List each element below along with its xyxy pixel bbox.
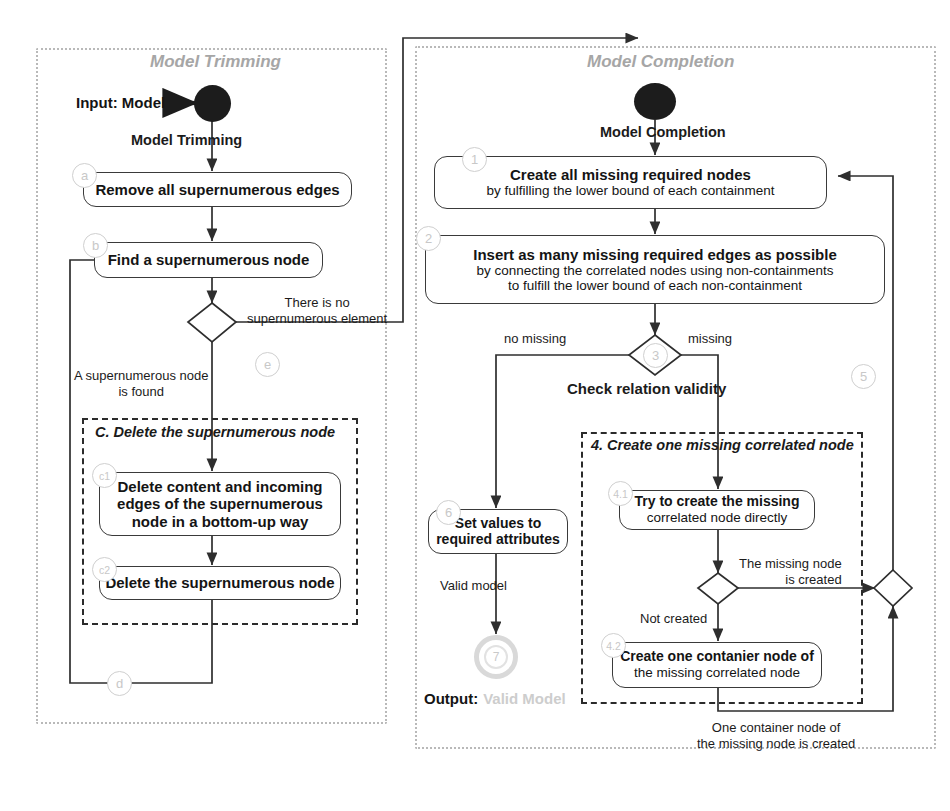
- panel-title-model-trimming: Model Trimming: [150, 52, 281, 72]
- action-b[interactable]: Find a supernumerous node: [94, 242, 323, 278]
- start-node-trimming: [194, 85, 231, 122]
- edge-label-no-element-line2: supernumerous element: [247, 311, 387, 326]
- edge-label-container-node-created: One container node of the missing node i…: [697, 720, 855, 751]
- flow-label-model-completion: Model Completion: [600, 124, 726, 141]
- badge-c1: c1: [92, 463, 117, 488]
- action-6-line1: Set values to: [455, 516, 541, 532]
- badge-2: 2: [416, 226, 441, 251]
- action-1-line1: Create all missing required nodes: [510, 166, 751, 183]
- input-label-text: Input: Model: [76, 94, 165, 111]
- badge-6: 6: [436, 500, 461, 525]
- edge-label-no-element-line1: There is no: [285, 295, 350, 310]
- flow-label-model-trimming: Model Trimming: [131, 132, 242, 149]
- action-4-1[interactable]: Try to create the missing correlated nod…: [619, 490, 815, 530]
- output-value-text: Valid Model: [483, 690, 566, 707]
- action-c1-line2: edges of the supernumerous: [117, 495, 323, 512]
- end-node-7-label: 7: [484, 645, 508, 669]
- action-1[interactable]: Create all missing required nodes by ful…: [434, 156, 827, 209]
- edge-label-container-line2: the missing node is created: [697, 736, 855, 751]
- badge-c2: c2: [92, 557, 117, 582]
- action-1-line2: by fulfilling the lower bound of each co…: [486, 183, 774, 198]
- badge-d: d: [107, 671, 132, 696]
- diagram-canvas: Model Trimming Input: Model Model Trimmi…: [0, 0, 950, 811]
- action-4-1-line2: correlated node directly: [647, 510, 787, 525]
- edge-label-no-supernumerous-element: There is no supernumerous element: [247, 295, 387, 326]
- badge-1: 1: [462, 147, 487, 172]
- badge-a: a: [72, 163, 97, 188]
- action-4-1-line1: Try to create the missing: [635, 494, 800, 510]
- badge-5: 5: [851, 364, 876, 389]
- badge-3: 3: [643, 343, 668, 368]
- edge-label-created-line2: is created: [785, 572, 841, 587]
- action-c1-line3: node in a bottom-up way: [132, 513, 309, 530]
- edge-label-found-line2: is found: [118, 384, 164, 399]
- group-c-title: C. Delete the supernumerous node: [95, 424, 335, 440]
- action-b-line1: Find a supernumerous node: [108, 251, 310, 268]
- edge-label-missing-node-created: The missing node is created: [739, 556, 842, 587]
- end-node-7: 7: [474, 635, 518, 679]
- action-4-2-line2: the missing correlated node: [634, 665, 800, 680]
- action-2[interactable]: Insert as many missing required edges as…: [425, 235, 885, 304]
- output-valid-model-label: Output: Valid Model: [424, 690, 566, 707]
- action-c2[interactable]: Delete the supernumerous node: [99, 566, 341, 600]
- edge-label-found-line1: A supernumerous node: [74, 368, 208, 383]
- action-c1-line1: Delete content and incoming: [117, 478, 322, 495]
- action-6-line2: required attributes: [436, 532, 560, 548]
- panel-title-model-completion: Model Completion: [587, 52, 734, 72]
- start-node-completion: [634, 83, 676, 120]
- action-2-line2: by connecting the correlated nodes using…: [476, 263, 833, 278]
- action-4-2-line1: Create one contanier node of: [620, 649, 814, 665]
- action-2-line3: to fulfill the lower bound of each non-c…: [508, 278, 802, 293]
- badge-4-1: 4.1: [608, 481, 633, 506]
- badge-4-2: 4.2: [601, 633, 626, 658]
- action-2-line1: Insert as many missing required edges as…: [473, 246, 836, 263]
- edge-label-container-line1: One container node of: [712, 720, 841, 735]
- badge-e: e: [255, 352, 280, 377]
- action-c1[interactable]: Delete content and incoming edges of the…: [99, 472, 341, 536]
- action-c2-line1: Delete the supernumerous node: [105, 574, 334, 591]
- edge-label-supernumerous-node-found: A supernumerous node is found: [74, 368, 208, 399]
- edge-label-no-missing: no missing: [504, 331, 566, 347]
- action-a[interactable]: Remove all supernumerous edges: [83, 172, 352, 207]
- edge-label-not-created: Not created: [640, 611, 707, 627]
- decision-3-caption: Check relation validity: [567, 380, 726, 398]
- badge-b: b: [83, 233, 108, 258]
- edge-label-created-line1: The missing node: [739, 556, 842, 571]
- output-label-text: Output:: [424, 690, 478, 707]
- action-4-2[interactable]: Create one contanier node of the missing…: [612, 642, 822, 688]
- action-a-line1: Remove all supernumerous edges: [95, 181, 339, 198]
- group-4-title: 4. Create one missing correlated node: [591, 437, 854, 453]
- edge-label-valid-model: Valid model: [440, 578, 507, 594]
- edge-label-missing: missing: [688, 331, 732, 347]
- input-model-label: Input: Model: [76, 94, 165, 111]
